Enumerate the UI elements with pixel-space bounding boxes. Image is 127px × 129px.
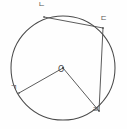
center-label-o: O (58, 66, 64, 74)
vertex-dot-g (18, 92, 20, 94)
vertex-dot-n (43, 16, 45, 18)
chord-d-to-r (99, 28, 103, 111)
radius-o-to-g (19, 68, 63, 93)
vertex-dot-d (102, 27, 104, 29)
point-label-d: ㄷ (100, 15, 107, 23)
point-label-n: ㄴ (38, 1, 45, 9)
geometry-figure: ㄴ ㄷ ㄱ ㄹ O (0, 0, 127, 129)
point-label-g: ㄱ (10, 84, 17, 92)
point-label-r: ㄹ (92, 106, 99, 114)
chord-n-to-d (44, 17, 103, 28)
